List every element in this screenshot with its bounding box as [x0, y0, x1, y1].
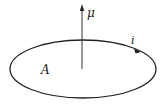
- area-label: A: [40, 63, 50, 77]
- moment-label: μ: [87, 6, 95, 20]
- current-label: i: [131, 34, 135, 47]
- moment-arrowhead-icon: [80, 4, 84, 11]
- current-loop-diagram: μ i A: [0, 0, 167, 111]
